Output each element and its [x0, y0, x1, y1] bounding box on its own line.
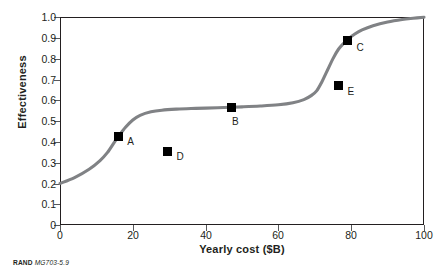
data-point-marker-b[interactable] — [227, 103, 236, 112]
data-point-marker-d[interactable] — [163, 147, 172, 156]
x-tick-label: 100 — [404, 229, 444, 241]
source-org: RAND — [13, 259, 33, 266]
data-point-label-e: E — [347, 86, 354, 97]
x-tick-label: 0 — [40, 229, 80, 241]
y-tick-label: 0.2 — [4, 178, 56, 190]
x-tick-label: 80 — [331, 229, 371, 241]
figure-container: 1.0 0.9 0.8 0.7 0.6 0.5 0.4 0.3 0.2 0.1 … — [0, 0, 445, 279]
y-tick-label: 0.5 — [4, 115, 56, 127]
source-caption: RAND MG703-5.9 — [13, 259, 69, 266]
x-axis-title: Yearly cost ($B) — [60, 243, 424, 255]
y-tick-label: 0.1 — [4, 198, 56, 210]
x-tick-label: 20 — [113, 229, 153, 241]
data-point-marker-a[interactable] — [114, 132, 123, 141]
y-tick-label: 1.0 — [4, 11, 56, 23]
data-point-label-a: A — [127, 136, 134, 147]
y-tick-label: 0.8 — [4, 53, 56, 65]
y-tick-label: 0.7 — [4, 74, 56, 86]
effectiveness-curve — [60, 17, 424, 183]
data-point-label-d: D — [176, 151, 183, 162]
y-tick-label: 0.6 — [4, 94, 56, 106]
x-tick-label: 40 — [186, 229, 226, 241]
data-point-label-c: C — [357, 42, 364, 53]
x-tick-label: 60 — [258, 229, 298, 241]
curve-layer — [60, 17, 424, 225]
source-document-id: MG703-5.9 — [35, 259, 69, 266]
y-tick-label: 0.3 — [4, 157, 56, 169]
data-point-marker-c[interactable] — [343, 36, 352, 45]
y-tick-label: 0.4 — [4, 136, 56, 148]
y-axis-title: Effectiveness — [16, 32, 28, 152]
data-point-marker-e[interactable] — [334, 81, 343, 90]
y-tick-label: 0.9 — [4, 32, 56, 44]
data-point-label-b: B — [232, 116, 239, 127]
